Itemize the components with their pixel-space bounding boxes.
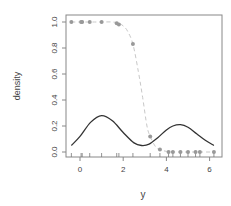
observation-point: [194, 150, 198, 154]
observation-point: [167, 150, 171, 154]
y-axis: 0.00.20.40.60.81.0: [50, 16, 66, 158]
observation-point: [80, 20, 84, 24]
x-axis-label: y: [141, 189, 146, 200]
plot-area: 0.00.20.40.60.81.0 0246 y density: [0, 0, 231, 206]
observation-point: [178, 150, 182, 154]
observation-point: [171, 150, 175, 154]
y-tick-label: 0.6: [50, 68, 59, 80]
density-chart: 0.00.20.40.60.81.0 0246 y density: [0, 0, 231, 206]
observation-points: [69, 20, 216, 154]
observation-point: [69, 20, 73, 24]
observation-point: [131, 42, 135, 46]
x-tick-label: 2: [121, 165, 126, 174]
x-tick-label: 6: [207, 165, 212, 174]
observation-point: [117, 23, 121, 27]
x-axis: 0246: [78, 157, 213, 174]
x-tick-label: 4: [164, 165, 169, 174]
probability-curve: [71, 22, 214, 152]
observation-point: [100, 20, 104, 24]
observation-point: [198, 150, 202, 154]
observation-point: [148, 134, 152, 138]
observation-point: [88, 20, 92, 24]
density-curve: [71, 116, 214, 146]
y-tick-label: 0.4: [50, 94, 59, 106]
y-tick-label: 0.0: [50, 146, 59, 158]
observation-point: [186, 150, 190, 154]
observation-point: [212, 150, 216, 154]
y-tick-label: 0.8: [50, 42, 59, 54]
y-axis-label: density: [12, 71, 22, 100]
rug-ticks: [71, 153, 214, 157]
observation-point: [158, 147, 162, 151]
y-tick-label: 0.2: [50, 120, 59, 132]
x-tick-label: 0: [78, 165, 83, 174]
y-tick-label: 1.0: [50, 16, 59, 28]
